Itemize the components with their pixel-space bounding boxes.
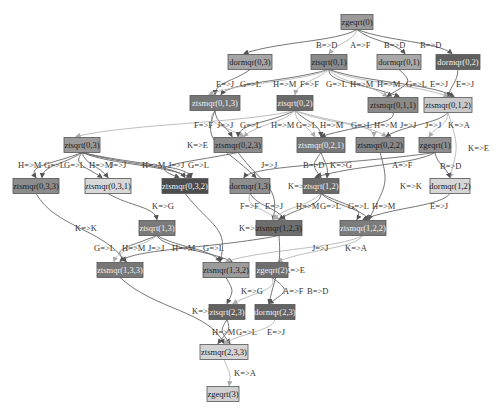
graph-node[interactable]: dormqr(1,2) [429,179,470,194]
node-label: ztsmqr(0,2,1) [298,140,344,150]
edge-labels-layer: B=>DA=>FB=>DB=>DE=>JG=>LH=>MF=>FG=>LH=>M… [18,40,489,378]
edge-label: H=>M [372,201,396,211]
edge-label: G=>L [320,201,341,211]
edge [224,360,230,386]
edge-label: H=>M [18,160,42,170]
edge-label: E=>J [267,327,286,337]
node-label: dormqr(0,3) [229,57,270,67]
edge-label: H=>M [273,79,297,89]
graph-node[interactable]: ztsmqr(0,3,3) [13,179,59,194]
graph-node[interactable]: ztsmqr(0,3,2) [162,179,208,194]
edge-label: J=>J [168,160,185,170]
edge-label: H=>M [142,160,166,170]
graph-node[interactable]: ztsmqr(0,2,3) [214,138,262,153]
edge-label: G=>L [203,243,224,253]
graph-node[interactable]: dormqr(1,3) [229,179,270,194]
graph-node[interactable]: zgeqrt(0) [341,15,373,30]
node-label: ztsmqr(0,2,3) [215,140,261,150]
node-label: ztsmqr(1,2,2) [340,223,386,233]
edge-label: K=>G [152,201,174,211]
edge-label: B=>D [303,160,324,170]
graph-node[interactable]: ztsmqr(1,2,2) [340,221,386,236]
node-label: ztsmqr(0,1,3) [192,98,238,108]
graph-node[interactable]: zgeqrt(1) [419,138,451,153]
node-label: ztsqrt(0,3) [64,140,99,150]
graph-node[interactable]: ztsmqr(0,2,1) [297,138,345,153]
graph-node[interactable]: ztsmqr(0,1,3) [190,96,240,111]
edge-label: J=>J [400,120,417,130]
node-label: zgeqrt(1) [419,140,450,150]
graph-node[interactable]: zgeqrt(3) [207,387,239,402]
edge [76,111,295,137]
graph-node[interactable]: ztsmqr(2,3,3) [200,345,248,360]
dependency-graph: B=>DA=>FB=>DB=>DE=>JG=>LH=>MF=>FG=>LH=>M… [0,0,500,414]
graph-node[interactable]: ztsmqr(0,1,1) [368,98,418,113]
node-label: ztsmqr(0,3,1) [85,181,131,191]
edge-label: H=>M [212,327,236,337]
graph-node[interactable]: dormqr(0,3) [228,55,272,70]
node-label: ztsmqr(2,3,3) [201,347,247,357]
edge [269,278,284,304]
edge-label: F=>F [194,120,213,130]
graph-node[interactable]: ztsqrt(1,3) [139,221,175,236]
graph-node[interactable]: ztsqrt(2,3) [209,305,245,320]
edge-label: K=>E [468,143,489,153]
edge-label: B=>D [316,40,337,50]
edge-label: G=>L [348,201,369,211]
edge-label: H=>M [320,120,344,130]
edge [244,30,357,54]
edge-label: J=>J [425,120,442,130]
edge-label: G=>L [351,120,372,130]
edge-label: A=>F [283,286,304,296]
graph-node[interactable]: dormqr(2,3) [254,305,295,320]
node-label: ztsqrt(2,3) [209,307,244,317]
edge-label: K=>A [234,368,257,378]
graph-node[interactable]: ztsmqr(1,3,3) [97,263,143,278]
node-label: dormqr(0,2) [437,57,478,67]
graph-node[interactable]: ztsmqr(0,2,2) [356,138,404,153]
edge-label: K=>K [400,181,423,191]
node-label: ztsqrt(1,2) [303,181,338,191]
node-label: ztsqrt(0,2) [277,98,312,108]
edge-label: K=>G [241,286,263,296]
edge-label: B=>D [420,40,441,50]
graph-node[interactable]: zgeqrt(2) [256,263,288,278]
edge-label: G=>L [240,79,261,89]
edge-label: G=>L [406,79,427,89]
edge-label: H=>M [374,120,398,130]
edge-label: J=>J [312,243,329,253]
graph-node[interactable]: ztsmqr(0,3,1) [85,179,131,194]
edge-label: A=>F [392,160,413,170]
edge-label: H=>M [296,201,320,211]
edge-label: G=>L [64,160,85,170]
edge [226,278,232,304]
edge-label: H=>M [122,243,146,253]
graph-node[interactable]: ztsmqr(0,1,2) [424,98,472,113]
edge-label: K=>E [187,140,208,150]
edge-label: A=>F [350,40,371,50]
graph-node[interactable]: ztsqrt(0,3) [64,138,100,153]
graph-node[interactable]: ztsmqr(1,2,3) [256,221,302,236]
node-label: ztsmqr(1,2,3) [256,223,302,233]
edge-label: G=>L [44,160,65,170]
edge-label: G=>L [188,160,209,170]
edge-label: H=>M [377,79,401,89]
node-label: ztsmqr(0,1,1) [370,100,416,110]
edge-label: K=>A [448,120,471,130]
graph-node[interactable]: ztsqrt(0,2) [277,96,313,111]
node-label: dormqr(2,3) [254,307,295,317]
graph-node[interactable]: dormqr(0,1) [377,55,421,70]
edge-label: J=>J [148,243,165,253]
graph-node[interactable]: ztsmqr(1,3,2) [203,263,249,278]
node-label: ztsmqr(0,2,2) [357,140,403,150]
node-label: zgeqrt(0) [341,17,372,27]
edge-label: K=>K [75,223,98,233]
graph-node[interactable]: dormqr(0,2) [436,55,480,70]
graph-node[interactable]: ztsqrt(0,1) [311,55,347,70]
node-label: dormqr(1,2) [429,181,470,191]
edge-label: H=>M [271,120,295,130]
graph-node[interactable]: ztsqrt(1,2) [303,179,339,194]
edge-label: F=>F [300,79,319,89]
node-label: ztsqrt(1,3) [139,223,174,233]
edge-label: G=>L [236,327,257,337]
